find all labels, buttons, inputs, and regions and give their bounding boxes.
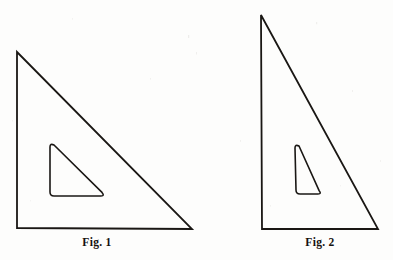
figure-2-drawing (200, 0, 393, 232)
figure-1-group: Fig. 1 (0, 0, 200, 260)
figure-2-caption: Fig. 2 (270, 236, 370, 248)
figure-1-drawing (0, 0, 200, 232)
figure-plate: Fig. 1 Fig. 2 (0, 0, 393, 260)
figure-2-inner-cutout-path (295, 145, 320, 194)
figure-1-caption: Fig. 1 (47, 236, 147, 248)
figure-2-group: Fig. 2 (200, 0, 393, 260)
figure-1-outer-triangle-path (17, 52, 192, 229)
figure-2-outer-triangle-path (261, 15, 378, 229)
figure-1-inner-cutout-path (50, 144, 103, 196)
